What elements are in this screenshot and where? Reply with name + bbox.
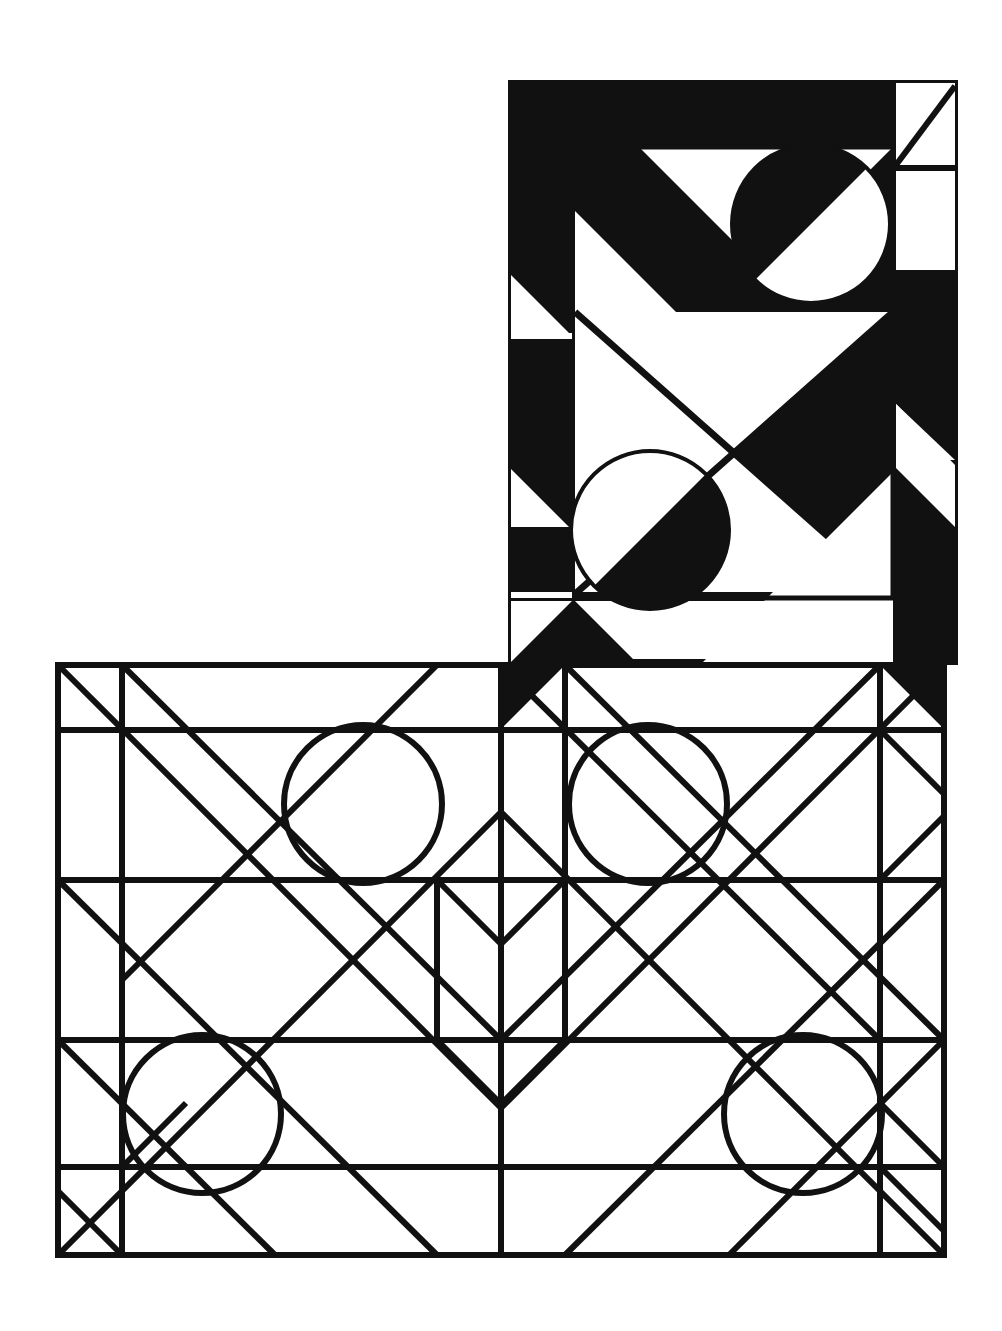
circle-upper-mid — [571, 451, 729, 609]
circle-upper-right — [732, 145, 890, 303]
upper-gap-c — [511, 592, 572, 598]
upper-gap-b — [511, 333, 572, 339]
upper-right-white-cell-2 — [896, 171, 955, 270]
upper-block — [508, 80, 958, 665]
artwork-canvas — [0, 0, 1002, 1331]
geometric-composition — [0, 0, 1002, 1331]
